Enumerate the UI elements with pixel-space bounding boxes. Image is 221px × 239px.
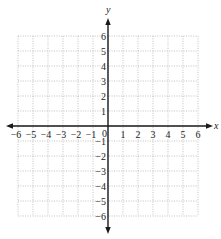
x-tick-label: 2 [136,129,141,140]
x-tick-label: −6 [11,129,22,140]
x-tick-label: −5 [26,129,37,140]
y-tick-label: 5 [101,46,106,57]
y-tick-label: 2 [101,91,106,102]
x-tick-label: 5 [181,129,186,140]
x-axis-label: x [213,120,219,131]
x-tick-label: 4 [166,129,171,140]
y-tick-label: 3 [101,76,106,87]
y-tick-label: −4 [95,181,106,192]
axes [6,18,213,234]
y-tick-label: −5 [95,196,106,207]
x-axis-left-arrow-icon [6,123,13,128]
x-axis-right-arrow-icon [206,123,213,128]
x-tick-label: 6 [196,129,201,140]
y-tick-label: −6 [95,211,106,222]
y-tick-label: 1 [101,106,106,117]
y-tick-label: −2 [95,151,106,162]
x-tick-label: −2 [71,129,82,140]
x-tick-label: −3 [56,129,67,140]
y-tick-label: −3 [95,166,106,177]
y-axis-label: y [105,4,111,15]
y-tick-label: 4 [101,61,106,72]
y-axis-top-arrow-icon [105,18,110,25]
x-tick-label: 1 [121,129,126,140]
y-axis-bottom-arrow-icon [105,227,110,234]
coordinate-plane: x y −6−5−4−3−2−1123456 654321−1−2−3−4−5−… [0,0,221,239]
y-tick-label: 6 [101,31,106,42]
x-tick-label: 3 [151,129,156,140]
x-tick-label: −4 [41,129,52,140]
origin-label: 0 [102,128,107,139]
